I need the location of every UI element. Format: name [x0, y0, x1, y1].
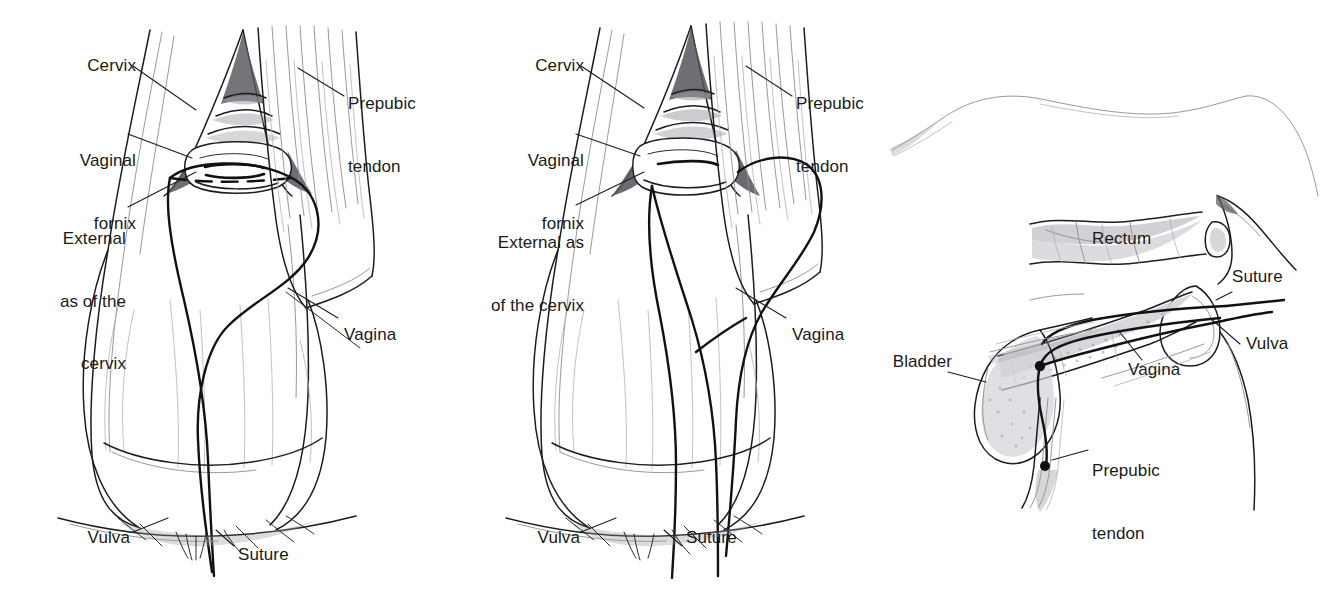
label-vaginal-fornix-line1: Vaginal	[20, 151, 136, 172]
label-external-os: External as of the cervix	[8, 188, 126, 416]
label-vagina: Vagina	[1128, 360, 1212, 381]
label-external-os-line1: External as	[436, 233, 584, 254]
label-prepubic-tendon-line1: Prepubic	[1092, 461, 1202, 482]
panel-right-sagittal-view: Rectum Suture Vulva Bladder Vagina Prepu…	[880, 0, 1320, 599]
body-contour-right	[890, 96, 1318, 196]
suture-middle[interactable]	[649, 158, 821, 578]
figure-root: Cervix Vaginal fornix External as of the…	[0, 0, 1320, 599]
label-external-os: External as of the cervix	[436, 192, 584, 358]
label-vulva: Vulva	[502, 528, 580, 549]
label-vagina: Vagina	[792, 325, 882, 346]
panel-left-caudal-view: Cervix Vaginal fornix External as of the…	[0, 0, 470, 599]
label-prepubic-tendon: Prepubic tendon	[1092, 420, 1202, 586]
label-suture: Suture	[238, 545, 318, 566]
label-external-os-line2: as of the	[8, 292, 126, 313]
label-prepubic-tendon-line2: tendon	[1092, 524, 1202, 545]
label-suture: Suture	[686, 528, 766, 549]
label-vulva: Vulva	[58, 528, 130, 549]
label-cervix: Cervix	[40, 56, 136, 77]
label-vagina: Vagina	[344, 325, 434, 346]
label-cervix: Cervix	[488, 56, 584, 77]
panel-middle-caudal-view: Cervix Vaginal fornix External as of the…	[440, 0, 910, 599]
label-vulva: Vulva	[1246, 334, 1320, 355]
suture-left[interactable]	[168, 163, 360, 576]
label-external-os-line2: of the cervix	[436, 296, 584, 317]
label-suture: Suture	[1232, 267, 1316, 288]
label-vaginal-fornix-line1: Vaginal	[468, 151, 584, 172]
label-external-os-line1: External	[8, 229, 126, 250]
label-rectum: Rectum	[1092, 229, 1182, 250]
label-bladder: Bladder	[870, 352, 952, 373]
label-external-os-line3: cervix	[8, 354, 126, 375]
external-os-middle	[633, 138, 740, 195]
